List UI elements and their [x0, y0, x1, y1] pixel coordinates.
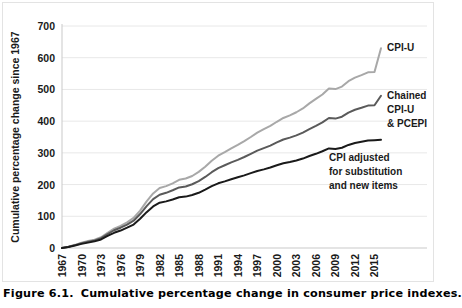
x-tick-label: 2012 [349, 254, 361, 278]
x-tick-label: 1973 [95, 254, 107, 278]
x-tick-label: 1982 [154, 254, 166, 278]
x-tick-label: 1994 [232, 254, 244, 278]
y-tick-label: 0 [49, 242, 55, 254]
figure-caption-number: Figure 6.1. [3, 287, 74, 300]
series-label: & PCEPI [387, 118, 427, 129]
figure-caption: Figure 6.1.Cumulative percentage change … [3, 287, 437, 300]
data-series-lines [62, 48, 381, 248]
y-tick-label: 300 [37, 147, 55, 159]
x-tick-label: 2015 [368, 254, 380, 278]
series-label: CPI-U [387, 104, 414, 115]
y-tick-label: 500 [37, 83, 55, 95]
y-tick-label: 200 [37, 179, 55, 191]
series-label: CPI adjusted [329, 152, 390, 163]
line-chart: 0100200300400500600700 19671970197319761… [3, 3, 433, 281]
y-axis-tick-labels: 0100200300400500600700 [37, 20, 55, 254]
y-tick-label: 600 [37, 52, 55, 64]
series-label: CPI-U [387, 42, 414, 53]
chart-plot-frame: 0100200300400500600700 19671970197319761… [2, 2, 434, 282]
x-tick-label: 1976 [115, 254, 127, 278]
x-tick-label: 1970 [76, 254, 88, 278]
gridlines [62, 24, 427, 248]
figure-caption-text: Cumulative percentage change in consumer… [81, 287, 462, 300]
series-label: for substitution [329, 166, 402, 177]
y-tick-label: 400 [37, 115, 55, 127]
x-tick-label: 1979 [134, 254, 146, 278]
x-tick-label: 2006 [310, 254, 322, 278]
x-tick-label: 2003 [290, 254, 302, 278]
x-tick-label: 1985 [173, 254, 185, 278]
x-tick-label: 2000 [271, 254, 283, 278]
x-tick-label: 1967 [56, 254, 68, 278]
series-label: Chained [387, 90, 426, 101]
x-tick-label: 1988 [193, 254, 205, 278]
series-label: and new items [329, 180, 398, 191]
x-tick-label: 1997 [251, 254, 263, 278]
x-tick-label: 2009 [329, 254, 341, 278]
x-tick-label: 1991 [212, 254, 224, 278]
x-axis-tick-labels: 1967197019731976197919821985198819911994… [56, 254, 380, 278]
y-axis-title: Cumulative percentage change since 1967 [9, 31, 21, 242]
y-tick-label: 700 [37, 20, 55, 32]
y-tick-label: 100 [37, 210, 55, 222]
